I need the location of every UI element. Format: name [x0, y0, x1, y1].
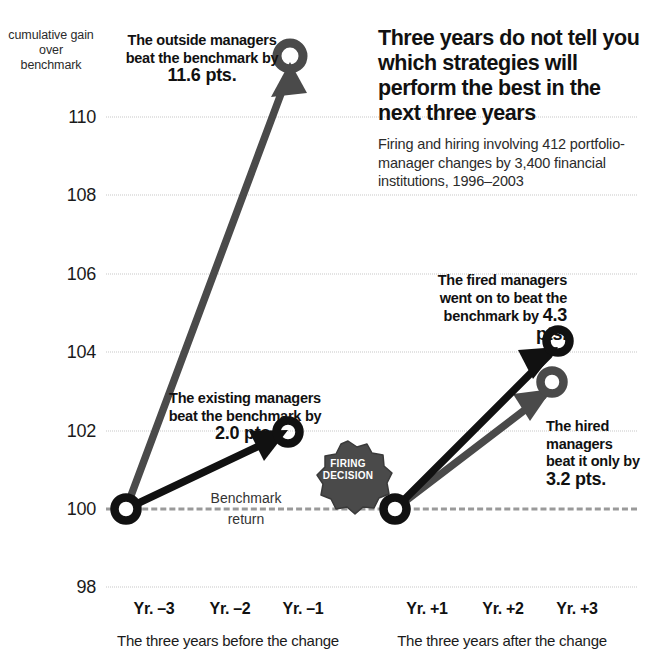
callout-hired-value: 3.2 pts. [546, 469, 606, 489]
panel-caption-before: The three years before the change [117, 632, 339, 649]
x-tick-yr-minus-2: Yr. –2 [210, 600, 251, 618]
callout-fired-managers: The fired managers went on to beat the b… [412, 272, 567, 344]
x-tick-yr-plus-3: Yr. +3 [556, 600, 597, 618]
callout-outside-text: The outside managers beat the benchmark … [126, 32, 279, 66]
callout-existing-value: 2.0 pts. [215, 423, 275, 443]
callout-hired-managers: The hired managers beat it only by 3.2 p… [546, 418, 642, 489]
benchmark-label-top: Benchmark [193, 488, 299, 509]
x-tick-yr-minus-1: Yr. –1 [283, 600, 324, 618]
page-subtitle: Firing and hiring involving 412 portfoli… [378, 135, 640, 191]
callout-hired-text: The hired managers beat it only by [546, 418, 640, 469]
callout-outside-managers: The outside managers beat the benchmark … [112, 32, 292, 86]
benchmark-label-bottom: return [193, 509, 299, 530]
title-block: Three years do not tell you which strate… [378, 26, 640, 191]
callout-existing-text: The existing managers beat the benchmark… [169, 390, 322, 424]
x-tick-yr-minus-3: Yr. –3 [134, 600, 175, 618]
chart-root: cumulative gain over benchmark 110 108 1… [0, 0, 649, 671]
x-tick-yr-plus-1: Yr. +1 [406, 600, 447, 618]
panel-caption-after: The three years after the change [397, 632, 607, 649]
series-arrow-fired [395, 330, 570, 510]
node-origin-before [115, 498, 138, 521]
callout-existing-managers: The existing managers beat the benchmark… [165, 390, 325, 444]
page-title: Three years do not tell you which strate… [378, 26, 640, 126]
callout-fired-value: 4.3 pts. [536, 305, 567, 344]
node-origin-after [384, 498, 407, 521]
benchmark-return-label: Benchmark return [193, 488, 299, 530]
x-tick-yr-plus-2: Yr. +2 [482, 600, 523, 618]
callout-outside-value: 11.6 pts. [168, 65, 237, 85]
